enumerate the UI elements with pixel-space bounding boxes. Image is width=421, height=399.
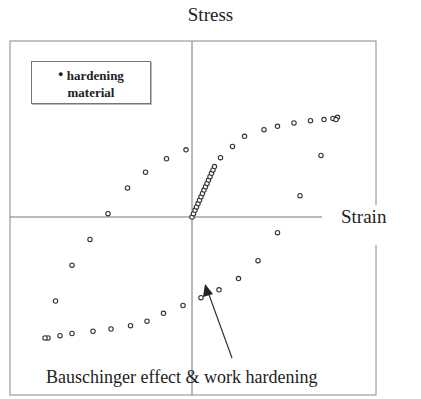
data-point xyxy=(70,263,74,267)
data-point xyxy=(106,211,110,215)
data-point xyxy=(275,230,279,234)
legend-marker-icon: ● xyxy=(58,69,63,79)
data-point xyxy=(70,331,74,335)
legend: ● hardening material xyxy=(31,61,151,104)
data-point xyxy=(58,334,62,338)
data-point xyxy=(184,148,188,152)
legend-label-line2: material xyxy=(32,84,150,101)
data-point xyxy=(43,336,47,340)
data-point xyxy=(199,295,203,299)
x-axis-label: Strain xyxy=(341,206,386,228)
data-point xyxy=(217,288,221,292)
data-point xyxy=(145,319,149,323)
data-point xyxy=(143,170,147,174)
data-point xyxy=(292,121,296,125)
annotation-text: Bauschinger effect & work hardening xyxy=(46,367,318,388)
arrow-icon xyxy=(203,284,232,358)
data-points xyxy=(43,115,340,340)
data-point xyxy=(161,311,165,315)
data-point xyxy=(128,323,132,327)
data-point xyxy=(164,157,168,161)
data-point xyxy=(218,155,222,159)
data-point xyxy=(308,118,312,122)
data-point xyxy=(322,117,326,121)
data-point xyxy=(88,237,92,241)
data-point xyxy=(91,329,95,333)
plot-area xyxy=(0,0,421,399)
data-point xyxy=(212,164,216,168)
data-point xyxy=(319,153,323,157)
data-point xyxy=(53,299,57,303)
data-point xyxy=(109,327,113,331)
data-point xyxy=(275,124,279,128)
data-point xyxy=(125,186,129,190)
data-point xyxy=(262,127,266,131)
data-point xyxy=(236,276,240,280)
data-point xyxy=(230,144,234,148)
data-point xyxy=(242,134,246,138)
data-point xyxy=(181,303,185,307)
legend-label-line1: hardening xyxy=(67,68,124,83)
data-point xyxy=(256,258,260,262)
data-point xyxy=(334,117,338,121)
data-point xyxy=(298,194,302,198)
